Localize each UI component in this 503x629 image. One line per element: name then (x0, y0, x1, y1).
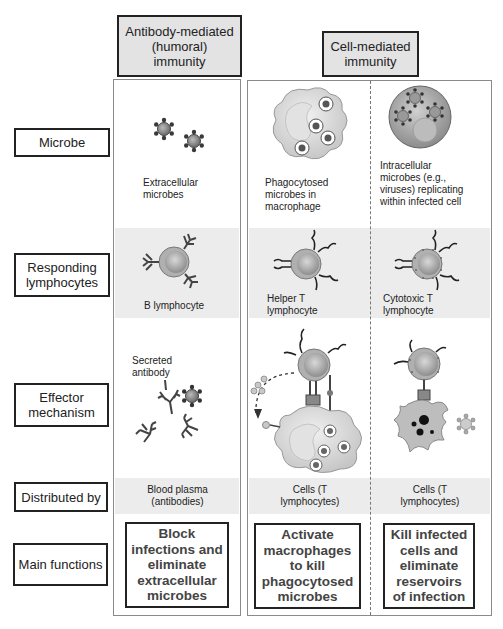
helper-t-activating-macrophage-icon (250, 325, 368, 475)
b-lymphocyte-icon (140, 232, 210, 290)
extracellular-microbes-icon (150, 115, 210, 155)
distributed-by-helper: Cells (T lymphocytes) (265, 484, 355, 508)
caption-intracellular-microbes: Intracellular microbes (e.g., viruses) r… (380, 160, 470, 208)
helper-t-lymphocyte-icon (272, 232, 342, 292)
caption-cytotoxic-t-lymphocyte: Cytotoxic T lymphocyte (383, 293, 463, 317)
row-label-microbe: Microbe (14, 128, 110, 157)
header-humoral-immunity: Antibody-mediated (humoral) immunity (117, 15, 242, 77)
main-function-cytotoxic: Kill infected cells and eliminate reserv… (383, 523, 475, 609)
row-label-effector-mechanism: Effector mechanism (14, 383, 109, 427)
row-label-text: Microbe (39, 135, 85, 150)
header-humoral-text: Antibody-mediated (humoral) immunity (125, 24, 234, 69)
header-cell-mediated-immunity: Cell-mediated immunity (322, 31, 419, 77)
main-function-helper: Activate macrophages to kill phagocytose… (254, 523, 361, 609)
row-label-text: Effector mechanism (16, 390, 107, 420)
row-label-responding-lymphocytes: Responding lymphocytes (14, 253, 110, 297)
distributed-by-cytotoxic: Cells (T lymphocytes) (385, 484, 475, 508)
column-divider (370, 81, 371, 615)
caption-extracellular-microbes: Extracellular microbes (143, 177, 213, 201)
distributed-by-humoral: Blood plasma (antibodies) (140, 484, 215, 508)
row-label-text: Distributed by (21, 490, 100, 505)
caption-b-lymphocyte: B lymphocyte (144, 300, 224, 312)
caption-secreted-antibody: Secreted antibody (132, 355, 178, 379)
row-label-text: Main functions (19, 557, 103, 572)
main-function-text: Kill infected cells and eliminate reserv… (389, 527, 469, 605)
macrophage-with-phagocytosed-microbes-icon (268, 84, 352, 164)
main-function-text: Block infections and eliminate extracell… (131, 526, 223, 604)
secreted-antibodies-icon (130, 380, 210, 460)
cytotoxic-t-killing-infected-cell-icon (380, 340, 490, 460)
row-label-main-functions: Main functions (13, 543, 108, 586)
header-cell-mediated-text: Cell-mediated immunity (330, 39, 411, 69)
main-function-text: Activate macrophages to kill phagocytose… (260, 527, 355, 605)
caption-helper-t-lymphocyte: Helper T lymphocyte (267, 293, 337, 317)
cytotoxic-t-lymphocyte-icon (393, 232, 463, 292)
infected-cell-with-intracellular-microbes-icon (387, 84, 453, 150)
row-label-distributed-by: Distributed by (14, 482, 108, 512)
caption-phagocytosed-microbes: Phagocytosed microbes in macrophage (265, 177, 345, 213)
row-label-text: Responding lymphocytes (16, 260, 108, 290)
main-function-humoral: Block infections and eliminate extracell… (125, 522, 229, 608)
